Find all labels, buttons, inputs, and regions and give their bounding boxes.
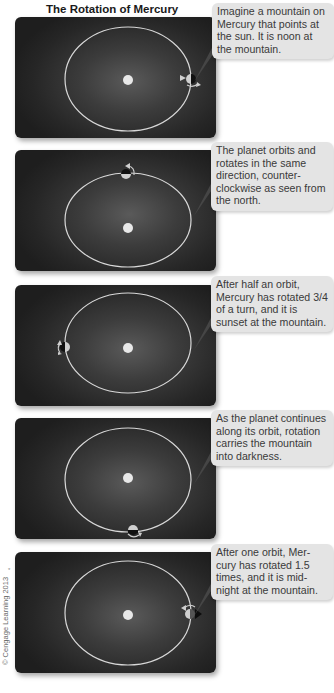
rotation-arrow-icon xyxy=(125,163,130,169)
caption-callout-5: After one orbit, Mer-cury has rotated 1.… xyxy=(211,544,333,600)
orbit-diagram-1 xyxy=(15,17,216,138)
caption-callout-2: The planet orbits and rotates in the sam… xyxy=(211,142,333,211)
mercury-planet-icon xyxy=(121,163,134,179)
orbit-panel-4 xyxy=(15,418,216,539)
rotation-arrow-icon xyxy=(138,532,142,537)
mountain-icon xyxy=(180,75,186,81)
mercury-planet-icon xyxy=(57,340,70,355)
sun-icon xyxy=(123,75,133,85)
orbit-diagram-2 xyxy=(15,150,216,271)
mountain-icon xyxy=(57,340,62,345)
sun-icon xyxy=(123,343,133,353)
orbit-panel-3 xyxy=(15,285,216,406)
caption-callout-4: As the planet continues along its orbit,… xyxy=(211,410,333,466)
mountain-icon xyxy=(128,530,138,533)
orbit-diagram-5 xyxy=(15,552,216,673)
orbit-panel-1 xyxy=(15,17,216,138)
sun-icon xyxy=(123,223,133,233)
copyright-credit: © Cengage Learning 2013 xyxy=(1,565,10,665)
caption-callout-3: After half an orbit, Mercury has rotated… xyxy=(211,276,333,332)
rotation-arrow-icon xyxy=(181,605,186,611)
orbit-diagram-3 xyxy=(15,285,216,406)
figure-title: The Rotation of Mercury xyxy=(46,3,178,15)
orbit-panel-5 xyxy=(15,552,216,673)
caption-callout-1: Imagine a mountain on Mercury that point… xyxy=(212,3,334,59)
orbit-ellipse xyxy=(65,173,191,267)
orbit-diagram-4 xyxy=(15,418,216,539)
sun-icon xyxy=(123,473,133,483)
sun-icon xyxy=(123,610,133,620)
orbit-panel-2 xyxy=(15,150,216,271)
